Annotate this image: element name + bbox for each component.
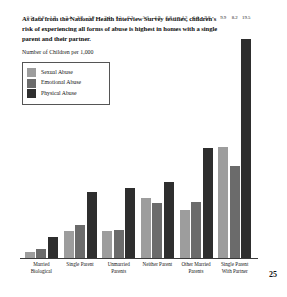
bar: 1.9 [48,237,58,258]
bar-column: 6.2 [125,22,135,258]
bar-column: 4.9 [152,22,162,258]
bar: 8.2 [230,166,240,258]
bar-value-label: 6.8 [166,16,172,21]
bar-value-label: 4.3 [182,16,188,21]
bar: 2.4 [64,231,74,258]
page-number: 25 [269,270,277,279]
bar-value-label: 2.5 [116,16,122,21]
bar-group: 4.35.09.8 [177,22,216,258]
chart-baseline-axis [20,258,258,259]
category-label: Single Parent [61,261,100,275]
bar: 9.9 [218,147,228,258]
bar-value-label: 5.3 [143,16,149,21]
category-label: Married Biological [22,261,61,275]
bar-value-label: 9.9 [220,16,226,21]
bar-column: 2.9 [75,22,85,258]
category-axis-labels: Married BiologicalSingle ParentUnmarried… [22,261,254,275]
bar: 5.3 [141,198,151,258]
bar-value-label: 2.4 [66,16,72,21]
bar: 0.8 [36,249,46,258]
category-label: Other Married Parents [177,261,216,275]
bar-column: 2.4 [64,22,74,258]
bar: 2.4 [102,231,112,258]
bar-column: 0.5 [25,22,35,258]
bar-value-label: 8.2 [232,16,238,21]
bar-value-label: 0.8 [38,16,44,21]
bar: 9.8 [203,148,213,258]
bar-group: 2.42.56.2 [99,22,138,258]
bar: 6.2 [125,188,135,258]
category-label: Neither Parent [138,261,177,275]
bar: 2.5 [114,230,124,258]
bar-column: 2.4 [102,22,112,258]
bar-group: 2.42.95.9 [61,22,100,258]
bar-value-label: 4.9 [154,16,160,21]
bar-column: 5.9 [87,22,97,258]
bar-column: 4.3 [180,22,190,258]
bar-column: 5.3 [141,22,151,258]
bar-group: 5.34.96.8 [138,22,177,258]
bar: 6.8 [164,182,174,258]
bar-column: 19.5 [241,22,251,258]
category-label: Unmarried Parents [99,261,138,275]
category-label: Single Parent With Partner [215,261,254,275]
bar-column: 2.5 [114,22,124,258]
bar-value-label: 2.9 [77,16,83,21]
bar-column: 1.9 [48,22,58,258]
bar-column: 0.8 [36,22,46,258]
bar-value-label: 1.9 [50,16,56,21]
bar: 19.5 [241,39,251,258]
chart-page: As data from the National Health Intervi… [0,0,287,297]
bar-column: 8.2 [230,22,240,258]
bar-value-label: 19.5 [242,16,250,21]
bar-column: 9.8 [203,22,213,258]
bar-value-label: 9.8 [205,16,211,21]
bar-value-label: 0.5 [27,16,33,21]
bar: 4.3 [180,210,190,258]
bar-group: 9.98.219.5 [215,22,254,258]
bar-value-label: 6.2 [127,16,133,21]
bar-column: 6.8 [164,22,174,258]
bar-value-label: 2.4 [104,16,110,21]
bar-value-label: 5.0 [193,16,199,21]
bar-groups: 0.50.81.92.42.95.92.42.56.25.34.96.84.35… [22,22,254,258]
bar-group: 0.50.81.9 [22,22,61,258]
bar: 5.9 [87,192,97,258]
bar-column: 5.0 [191,22,201,258]
bar-chart-plot-area: 0.50.81.92.42.95.92.42.56.25.34.96.84.35… [22,22,254,258]
bar-value-label: 5.9 [89,16,95,21]
bar: 4.9 [152,203,162,258]
bar-column: 9.9 [218,22,228,258]
bar: 5.0 [191,202,201,258]
bar: 2.9 [75,225,85,258]
